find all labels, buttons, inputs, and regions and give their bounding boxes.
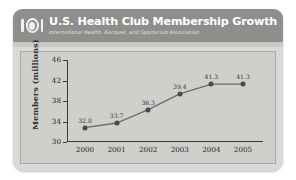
- x-tick-label: 2003: [171, 145, 189, 154]
- x-tick-label: 2002: [139, 145, 157, 154]
- data-point-label: 33.7: [110, 112, 124, 119]
- logo-right-bar: [41, 19, 44, 32]
- chart-plot-area: 3034384246 200020012002200320042005 32.8…: [67, 60, 263, 142]
- x-tick-label: 2005: [234, 145, 252, 154]
- card-header: U.S. Health Club Membership Growth Inter…: [13, 9, 283, 42]
- data-line: [67, 60, 263, 142]
- data-point-label: 36.3: [141, 99, 155, 106]
- data-point-label: 41.3: [236, 73, 250, 80]
- chart-panel: Members (millions) 3034384246 2000200120…: [20, 51, 276, 164]
- y-tick: 34: [63, 122, 67, 123]
- header-text-block: U.S. Health Club Membership Growth Inter…: [49, 16, 283, 36]
- y-axis-title: Members (millions): [30, 44, 40, 130]
- ihrsa-ring-logo-icon: [21, 17, 43, 34]
- data-point: [241, 82, 246, 87]
- y-tick: 42: [63, 81, 67, 82]
- data-point-label: 41.3: [205, 73, 219, 80]
- y-tick: 30: [63, 142, 67, 143]
- y-tick: 38: [63, 101, 67, 102]
- y-tick-label: 34: [52, 117, 61, 126]
- y-tick-label: 42: [52, 76, 61, 85]
- header-divider: [13, 42, 283, 47]
- data-point-label: 39.4: [173, 83, 187, 90]
- logo-left-bar: [21, 19, 24, 32]
- data-point-label: 32.8: [78, 117, 92, 124]
- y-tick: 46: [63, 60, 67, 61]
- logo-center-dot: [29, 22, 35, 30]
- page-subtitle: International Health, Racquet, and Sport…: [49, 28, 283, 36]
- data-point: [83, 125, 88, 130]
- data-point: [177, 91, 182, 96]
- y-tick-label: 46: [52, 55, 61, 64]
- x-tick-label: 2004: [202, 145, 220, 154]
- x-tick-label: 2000: [76, 145, 94, 154]
- data-point: [146, 107, 151, 112]
- infographic-card: U.S. Health Club Membership Growth Inter…: [13, 9, 283, 171]
- data-point: [209, 82, 214, 87]
- page-title: U.S. Health Club Membership Growth: [49, 16, 283, 28]
- y-tick-label: 38: [52, 96, 61, 105]
- x-tick-label: 2001: [107, 145, 125, 154]
- y-tick-label: 30: [52, 137, 61, 146]
- data-point: [114, 121, 119, 126]
